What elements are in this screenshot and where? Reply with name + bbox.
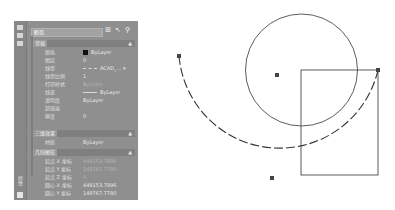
grip-arc-start[interactable] (177, 54, 181, 58)
rectangle-entity[interactable] (301, 70, 378, 175)
grip-arc-end[interactable] (376, 68, 380, 72)
grip-arc-center[interactable] (275, 73, 279, 77)
drawing-canvas[interactable] (0, 0, 395, 210)
grip-arc-midpoint[interactable] (270, 176, 274, 180)
